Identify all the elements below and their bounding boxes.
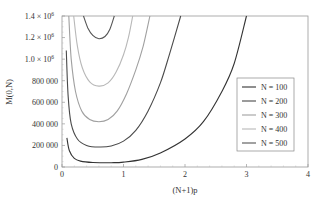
legend-entry: N = 300 — [261, 111, 287, 120]
curves — [66, 16, 246, 163]
x-tick-label: 4 — [306, 170, 310, 179]
y-tick-label: 800 000 — [32, 77, 58, 86]
legend-entry: N = 400 — [261, 125, 287, 134]
x-axis-label: (N+1)p — [172, 185, 197, 195]
x-tick-label: 1 — [122, 170, 126, 179]
curve-n-300 — [69, 16, 150, 122]
legend: N = 100N = 200N = 300N = 400N = 500 — [237, 78, 294, 151]
x-axis-ticks: 01234 — [60, 164, 310, 179]
y-tick-label: 1.0 × 106 — [25, 54, 55, 64]
chart: 01234 0200 000400 000600 000800 0001.0 ×… — [0, 0, 322, 204]
y-tick-label: 400 000 — [32, 120, 58, 129]
x-tick-label: 2 — [183, 170, 187, 179]
legend-entry: N = 500 — [261, 139, 287, 148]
curve-n-200 — [66, 16, 180, 147]
curve-n-100 — [67, 16, 247, 163]
curve-n-400 — [74, 16, 133, 86]
x-tick-label: 0 — [60, 170, 64, 179]
x-tick-label: 3 — [245, 170, 249, 179]
y-tick-label: 0 — [54, 163, 58, 172]
curve-n-500 — [84, 16, 115, 39]
y-tick-label: 600 000 — [32, 98, 58, 107]
y-axis-label: M(0,N) — [4, 79, 14, 105]
y-tick-label: 200 000 — [32, 141, 58, 150]
y-tick-label: 1.2 × 106 — [25, 32, 55, 42]
legend-entry: N = 100 — [261, 83, 287, 92]
legend-entry: N = 200 — [261, 97, 287, 106]
y-tick-label: 1.4 × 106 — [25, 11, 55, 21]
y-axis-ticks: 0200 000400 000600 000800 0001.0 × 1061.… — [25, 11, 65, 172]
